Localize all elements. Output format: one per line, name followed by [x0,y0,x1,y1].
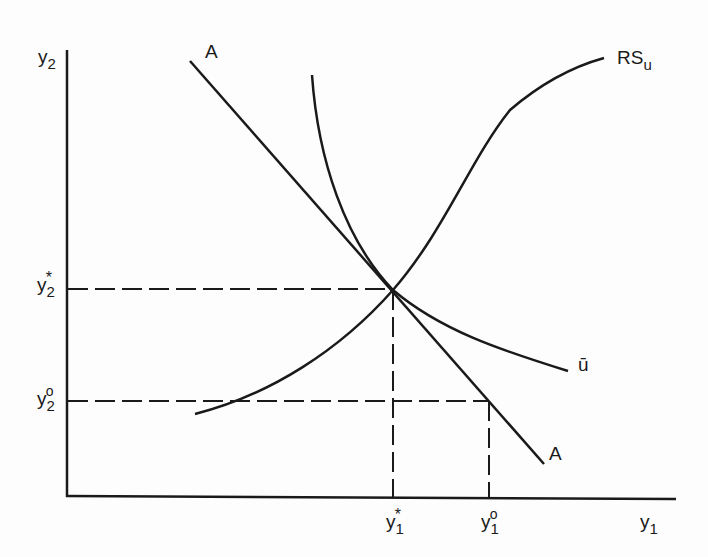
x-axis [66,496,676,499]
budget-line-label-top: A [205,42,218,61]
rs-curve [195,58,604,414]
indifference-curve-label: ū [578,355,589,374]
budget-line-a [190,61,544,464]
rs-curve-label: RSu [617,48,652,67]
y1-star-label: y1* [386,512,401,531]
diagram-canvas [0,0,708,557]
y1-zero-label: y1o [481,512,498,531]
y2-zero-label: y2o [37,389,54,408]
y2-star-label: y2* [37,275,52,294]
budget-line-label-bottom: A [549,444,562,463]
y1-axis-label: y1 [640,512,658,531]
y2-axis-label: y2 [38,47,56,66]
